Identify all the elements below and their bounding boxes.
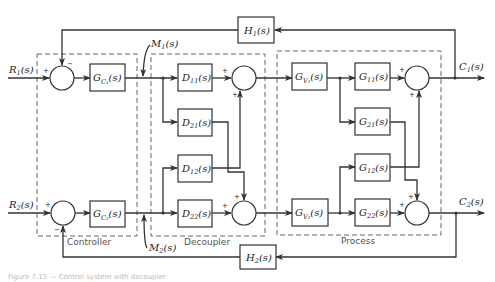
m1-to-d21	[163, 78, 177, 122]
m1-label: M1(s)	[150, 38, 178, 51]
sign-plus: +	[43, 67, 49, 75]
block-d22: D22(s)	[178, 200, 212, 227]
summer-decoupler-2	[232, 201, 256, 225]
sign-plus: +	[399, 66, 405, 74]
block-d12: D12(s)	[178, 155, 212, 182]
decoupler-label: Decoupler	[184, 237, 230, 247]
block-gv1: GV₁(s)	[292, 63, 327, 90]
block-d11: D11(s)	[178, 64, 212, 91]
summer-error-1	[50, 66, 74, 90]
gv2-to-g12	[340, 167, 355, 213]
junction-gv1	[338, 76, 341, 79]
sign-plus: +	[234, 193, 240, 201]
summer-decoupler-1	[232, 66, 256, 90]
gv1-to-g21	[340, 78, 355, 122]
m1-pointer	[143, 45, 150, 76]
sign-plus: +	[45, 201, 51, 209]
figure-caption: Figure 7.15 — Control system with decoup…	[8, 273, 166, 281]
block-g11: G11(s)	[355, 63, 390, 90]
sign-plus: +	[409, 91, 415, 99]
d12-to-sumd1	[212, 91, 240, 168]
controller-label: Controller	[67, 237, 112, 247]
block-gv2: GV₂(s)	[292, 199, 328, 226]
block-g21: G21(s)	[355, 108, 390, 135]
g21-to-sum2	[390, 122, 417, 200]
sign-minus: −	[67, 60, 73, 68]
block-d21: D21(s)	[178, 109, 212, 136]
output-c2-label: C2(s)	[459, 196, 484, 209]
block-gc1: GC₁(s)	[90, 64, 125, 91]
process-label: Process	[341, 236, 375, 246]
summer-error-2	[51, 201, 75, 225]
junction-c1	[453, 76, 456, 79]
sign-plus: +	[222, 202, 228, 210]
sign-plus: +	[408, 193, 414, 201]
sign-plus: +	[222, 67, 228, 75]
sign-plus: +	[232, 91, 238, 99]
sign-plus: +	[399, 201, 405, 209]
summer-process-1	[405, 66, 429, 90]
d21-to-sumd2	[212, 122, 244, 200]
h1-to-sum	[62, 30, 238, 65]
output-c1-label: C1(s)	[459, 61, 484, 74]
block-gc2: GC₂(s)	[90, 201, 125, 227]
block-h2: H2(s)	[240, 245, 276, 269]
block-g22: G22(s)	[355, 199, 390, 226]
junction-c2	[454, 211, 457, 214]
input-r1-label: R1(s)	[8, 64, 34, 77]
junction-m1	[161, 76, 164, 79]
m2-label: M2(s)	[148, 242, 176, 255]
summer-process-2	[405, 201, 429, 225]
block-diagram: Controller Decoupler Process + − + − +	[0, 0, 495, 282]
junction-gv2	[338, 211, 341, 214]
block-h1: H1(s)	[238, 17, 274, 43]
block-g12: G12(s)	[355, 154, 390, 181]
m2-to-d12	[163, 168, 177, 213]
input-r2-label: R2(s)	[8, 199, 34, 212]
junction-m2	[161, 211, 164, 214]
sign-minus: −	[54, 226, 60, 234]
m2-pointer	[144, 215, 147, 248]
